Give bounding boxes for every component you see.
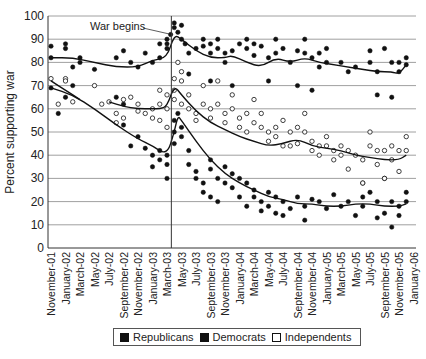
point-independents <box>303 111 307 115</box>
x-tick-label: March-03 <box>161 252 173 297</box>
point-republicans <box>252 53 256 57</box>
republicans-swatch-icon <box>120 333 129 342</box>
point-democrats <box>176 111 180 115</box>
point-republicans <box>172 25 176 29</box>
point-independents <box>179 79 183 83</box>
y-tick-label: 70 <box>31 79 45 93</box>
legend-item-republicans: Republicans <box>120 331 194 343</box>
point-republicans <box>324 46 328 50</box>
point-democrats <box>281 213 285 217</box>
x-tick-label: May-04 <box>263 252 275 287</box>
point-independents <box>179 102 183 106</box>
point-democrats <box>346 199 350 203</box>
point-republicans <box>230 83 234 87</box>
point-republicans <box>158 42 162 46</box>
y-tick-label: 100 <box>24 9 44 23</box>
x-tick-label: January-04 <box>234 252 246 305</box>
x-tick-label: March-02 <box>74 252 86 297</box>
point-independents <box>237 125 241 129</box>
point-democrats <box>361 204 365 208</box>
point-independents <box>339 144 343 148</box>
point-democrats <box>390 225 394 229</box>
point-democrats <box>187 148 191 152</box>
x-tick-label: November-03 <box>219 252 231 316</box>
point-republicans <box>114 56 118 60</box>
point-democrats <box>179 125 183 129</box>
point-independents <box>303 130 307 134</box>
x-tick-label: July-05 <box>364 252 376 286</box>
y-tick-labels: 0102030405060708090100 <box>24 9 44 255</box>
point-independents <box>310 148 314 152</box>
point-democrats <box>266 190 270 194</box>
point-democrats <box>368 190 372 194</box>
point-independents <box>382 148 386 152</box>
x-tick-label: November-05 <box>393 252 405 316</box>
y-tick-label: 10 <box>31 218 45 232</box>
point-democrats <box>172 141 176 145</box>
point-democrats <box>201 190 205 194</box>
x-tick-label: March-04 <box>248 252 260 297</box>
trend-line-independents <box>109 89 406 160</box>
point-independents <box>288 130 292 134</box>
point-republicans <box>368 60 372 64</box>
point-republicans <box>245 46 249 50</box>
point-republicans <box>201 44 205 48</box>
point-independents <box>100 102 104 106</box>
point-independents <box>136 102 140 106</box>
point-republicans <box>397 60 401 64</box>
point-independents <box>332 158 336 162</box>
point-independents <box>346 167 350 171</box>
point-democrats <box>259 199 263 203</box>
point-independents <box>361 158 365 162</box>
point-republicans <box>266 79 270 83</box>
point-independents <box>404 148 408 152</box>
point-democrats <box>404 199 408 203</box>
point-independents <box>252 97 256 101</box>
point-republicans <box>368 49 372 53</box>
x-tick-label: September-04 <box>292 252 304 319</box>
x-tick-label: September-02 <box>118 252 130 319</box>
point-independents <box>274 134 278 138</box>
point-independents <box>324 134 328 138</box>
point-independents <box>216 79 220 83</box>
point-republicans <box>303 51 307 55</box>
point-democrats <box>158 158 162 162</box>
x-tick-label: November-02 <box>132 252 144 316</box>
point-independents <box>375 162 379 166</box>
point-republicans <box>121 49 125 53</box>
point-democrats <box>208 195 212 199</box>
point-democrats <box>63 95 67 99</box>
war-begins-leader <box>143 28 169 34</box>
point-democrats <box>288 206 292 210</box>
y-tick-label: 30 <box>31 171 45 185</box>
point-independents <box>295 125 299 129</box>
y-tick-label: 50 <box>31 125 45 139</box>
point-democrats <box>252 195 256 199</box>
point-independents <box>129 95 133 99</box>
legend-item-democrats: Democrats <box>200 331 266 343</box>
point-independents <box>397 169 401 173</box>
point-independents <box>230 107 234 111</box>
point-independents <box>121 116 125 120</box>
point-independents <box>375 148 379 152</box>
x-tick-label: March-05 <box>335 252 347 297</box>
point-independents <box>252 121 256 125</box>
point-democrats <box>121 123 125 127</box>
point-republicans <box>310 88 314 92</box>
x-tick-label: September-05 <box>379 252 391 319</box>
point-independents <box>397 148 401 152</box>
point-republicans <box>208 42 212 46</box>
war-begins-label: War begins <box>90 20 146 32</box>
point-democrats <box>303 204 307 208</box>
point-independents <box>274 125 278 129</box>
point-republicans <box>216 46 220 50</box>
point-republicans <box>274 37 278 41</box>
point-republicans <box>346 69 350 73</box>
x-tick-label: May-02 <box>89 252 101 287</box>
point-democrats <box>397 213 401 217</box>
point-republicans <box>165 42 169 46</box>
point-independents <box>56 102 60 106</box>
point-independents <box>230 93 234 97</box>
point-democrats <box>165 176 169 180</box>
point-independents <box>165 107 169 111</box>
